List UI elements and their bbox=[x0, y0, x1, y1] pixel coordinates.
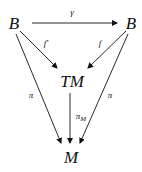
label-pi-m: πM bbox=[76, 112, 86, 123]
label-pi-m-sub: M bbox=[80, 115, 86, 123]
node-m: M bbox=[64, 149, 78, 166]
label-f-prime: f' bbox=[44, 39, 48, 48]
node-b-left: B bbox=[9, 15, 19, 32]
label-gamma: γ bbox=[70, 8, 74, 17]
arrow-f bbox=[88, 31, 126, 68]
arrow-f-prime bbox=[20, 31, 57, 68]
node-b-right: B bbox=[126, 15, 136, 32]
label-pi-right: π bbox=[108, 91, 113, 100]
arrow-pi-left bbox=[16, 34, 61, 143]
label-f: f bbox=[99, 39, 102, 48]
node-tm: TM bbox=[60, 73, 84, 90]
arrow-pi-right bbox=[80, 34, 128, 143]
label-pi-left: π bbox=[29, 91, 34, 100]
